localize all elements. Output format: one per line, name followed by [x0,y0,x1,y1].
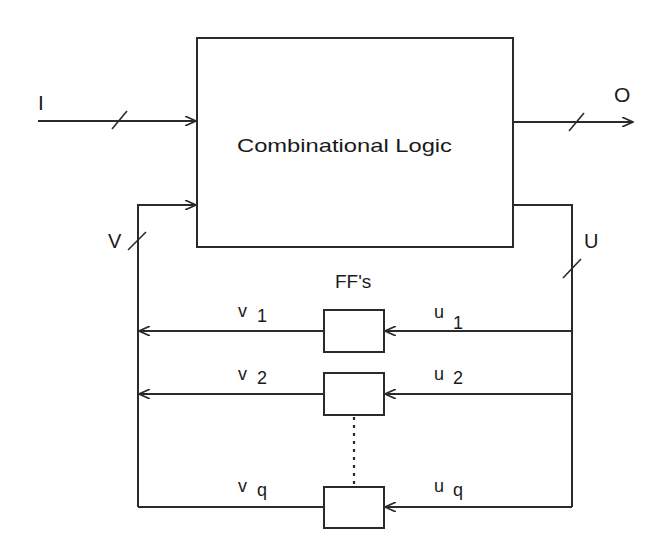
u2-subscript: 2 [453,368,463,388]
input-label: I [38,91,44,114]
uq-subscript: q [453,480,463,500]
flip-flop-2 [324,373,384,415]
v-bus-label: V [108,230,122,252]
diagram-canvas: Combinational Logic I O V U FF's v 1 u 1… [0,0,654,554]
v2-label: v [238,364,247,384]
v-bus-wire [138,205,196,507]
output-label: O [614,83,630,106]
u2-label: u [434,364,444,384]
v1-label: v [238,301,247,321]
flip-flop-1 [324,310,384,352]
v2-subscript: 2 [257,368,267,388]
u1-label: u [434,302,444,322]
v1-subscript: 1 [257,306,267,326]
combinational-logic-label: Combinational Logic [237,135,452,156]
u-bus-label: U [584,230,598,252]
vq-label: v [238,476,247,496]
ff-group-label: FF's [335,271,371,292]
u-bus-wire [513,205,572,507]
u1-subscript: 1 [453,313,463,333]
vq-subscript: q [257,480,267,500]
uq-label: u [434,476,444,496]
flip-flop-q [324,487,384,528]
